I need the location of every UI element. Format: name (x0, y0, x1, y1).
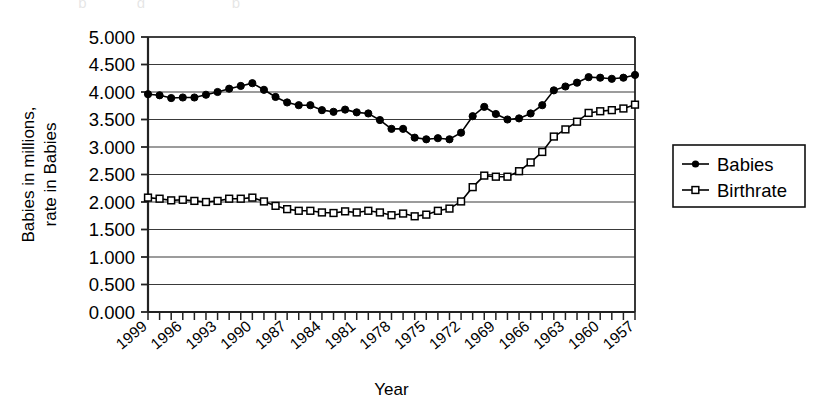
data-point-birthrate (527, 159, 534, 166)
data-point-birthrate (191, 198, 198, 205)
data-point-birthrate (377, 209, 384, 216)
data-point-birthrate (330, 210, 337, 217)
data-point-babies (249, 80, 256, 87)
data-point-babies (597, 74, 604, 81)
x-tick-label: 1963 (530, 317, 567, 352)
chart-container: p g p 5.0004.5004.0003.5003.0002.5002.00… (0, 0, 820, 405)
data-point-babies (179, 94, 186, 101)
data-point-birthrate (145, 194, 152, 201)
data-point-birthrate (237, 195, 244, 202)
data-point-babies (202, 91, 209, 98)
x-tick-label: 1981 (321, 317, 358, 352)
x-tick-label: 1978 (356, 317, 393, 352)
data-point-birthrate (295, 207, 302, 214)
data-point-birthrate (562, 126, 569, 133)
data-point-birthrate (168, 197, 175, 204)
data-point-birthrate (214, 198, 221, 205)
data-point-babies (446, 136, 453, 143)
legend-marker-birthrate (692, 187, 699, 194)
data-point-babies (515, 115, 522, 122)
data-point-babies (423, 136, 430, 143)
data-point-babies (272, 93, 279, 100)
data-point-babies (504, 116, 511, 123)
y-tick-label: 1.000 (89, 247, 135, 268)
legend-label: Birthrate (717, 180, 787, 201)
data-point-birthrate (319, 209, 326, 216)
data-point-babies (214, 88, 221, 95)
y-axis-title-line1: Babies in millions, (19, 106, 38, 242)
data-point-birthrate (388, 212, 395, 219)
data-point-birthrate (458, 198, 465, 205)
data-point-birthrate (469, 184, 476, 191)
legend-marker-babies (692, 160, 699, 167)
data-point-birthrate (585, 110, 592, 117)
y-tick-label: 1.500 (89, 219, 135, 240)
data-point-babies (434, 135, 441, 142)
x-axis-title: Year (374, 380, 409, 399)
y-tick-label: 4.500 (89, 54, 135, 75)
data-point-babies (156, 92, 163, 99)
data-point-birthrate (272, 202, 279, 209)
scan-artifact-text: p g p (60, 0, 620, 8)
data-point-babies (226, 85, 233, 92)
data-point-birthrate (226, 195, 233, 202)
data-point-birthrate (284, 206, 291, 213)
data-point-birthrate (353, 209, 360, 216)
data-point-birthrate (608, 107, 615, 114)
data-point-babies (481, 103, 488, 110)
legend-label: Babies (717, 154, 774, 175)
x-tick-label: 1972 (426, 317, 463, 352)
data-point-babies (550, 87, 557, 94)
data-point-birthrate (446, 205, 453, 212)
data-point-birthrate (597, 108, 604, 115)
x-tick-label: 1996 (147, 317, 184, 352)
data-point-babies (144, 91, 151, 98)
data-point-birthrate (516, 168, 523, 175)
data-point-birthrate (504, 173, 511, 180)
data-point-birthrate (307, 207, 314, 214)
x-tick-label: 1987 (252, 317, 289, 352)
data-point-babies (260, 86, 267, 93)
data-point-babies (365, 110, 372, 117)
x-tick-label: 1960 (565, 317, 603, 352)
x-tick-label: 1990 (217, 317, 255, 352)
x-tick-label: 1969 (460, 317, 497, 352)
data-point-babies (284, 99, 291, 106)
data-point-birthrate (492, 173, 499, 180)
data-point-birthrate (574, 118, 581, 125)
data-point-babies (191, 94, 198, 101)
data-point-birthrate (156, 195, 163, 202)
y-tick-label: 3.500 (89, 109, 135, 130)
y-tick-label: 2.500 (89, 164, 135, 185)
data-point-birthrate (423, 211, 430, 218)
y-axis-title-line2: rate in Babies (41, 123, 60, 227)
data-point-birthrate (203, 199, 210, 206)
y-tick-label: 5.000 (89, 27, 135, 48)
data-point-babies (457, 129, 464, 136)
data-point-birthrate (365, 207, 372, 214)
y-tick-label: 2.000 (89, 192, 135, 213)
x-tick-label: 1993 (182, 317, 219, 352)
data-point-babies (330, 108, 337, 115)
y-tick-label: 3.000 (89, 137, 135, 158)
data-point-birthrate (179, 196, 186, 203)
x-tick-label: 1999 (113, 317, 150, 352)
data-point-babies (631, 71, 638, 78)
data-point-birthrate (550, 133, 557, 140)
y-tick-label: 4.000 (89, 82, 135, 103)
data-point-birthrate (539, 149, 546, 156)
x-tick-label: 1966 (495, 317, 532, 352)
x-tick-label: 1975 (391, 317, 428, 352)
x-tick-label: 1957 (600, 317, 637, 352)
data-point-babies (353, 109, 360, 116)
y-tick-label: 0.000 (89, 302, 135, 323)
x-tick-label: 1984 (287, 317, 325, 352)
data-point-babies (608, 75, 615, 82)
data-point-babies (573, 79, 580, 86)
data-point-birthrate (632, 101, 639, 108)
data-point-babies (237, 82, 244, 89)
data-point-babies (168, 94, 175, 101)
data-point-birthrate (261, 198, 268, 205)
data-point-birthrate (481, 172, 488, 179)
data-point-babies (585, 74, 592, 81)
